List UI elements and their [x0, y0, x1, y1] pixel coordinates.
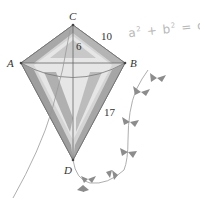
measure-c-center: 6	[76, 41, 82, 52]
vertex-label-b: B	[130, 58, 137, 69]
measure-bd: 17	[104, 107, 115, 118]
tail-bow	[122, 117, 139, 127]
eq-exp-a: 2	[136, 25, 142, 34]
eq-equals: =	[181, 20, 193, 35]
vertex-A-point	[20, 62, 23, 65]
vertex-label-d: D	[64, 165, 72, 176]
vertex-D-point	[72, 159, 75, 162]
measure-cb: 10	[101, 31, 112, 42]
tail-bow	[120, 148, 137, 158]
tail-bow	[150, 73, 166, 82]
vertex-label-a: A	[7, 58, 14, 69]
tail-bow	[133, 86, 150, 96]
eq-c: c	[196, 18, 200, 33]
vertex-label-c: C	[69, 11, 76, 22]
eq-exp-b: 2	[170, 21, 176, 30]
tail-bow	[81, 176, 96, 183]
kite-diagram: C A B D 10 6 17 a2 + b2 = c2	[0, 0, 200, 203]
vertex-C-point	[72, 24, 75, 27]
tail-bow	[77, 185, 89, 192]
eq-plus: +	[146, 23, 158, 38]
vertex-B-point	[124, 62, 127, 65]
